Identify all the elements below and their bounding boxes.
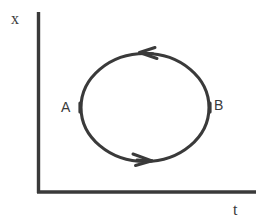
- point-a-label: A: [61, 100, 70, 114]
- figure-canvas: x t A B: [0, 0, 264, 224]
- y-axis-label: x: [11, 11, 19, 27]
- arrow-right-bottom-icon: [133, 154, 152, 166]
- orbit-ellipse: [81, 54, 209, 162]
- x-axis-label: t: [233, 202, 237, 218]
- point-b-label: B: [214, 98, 223, 112]
- diagram-svg: [0, 0, 264, 224]
